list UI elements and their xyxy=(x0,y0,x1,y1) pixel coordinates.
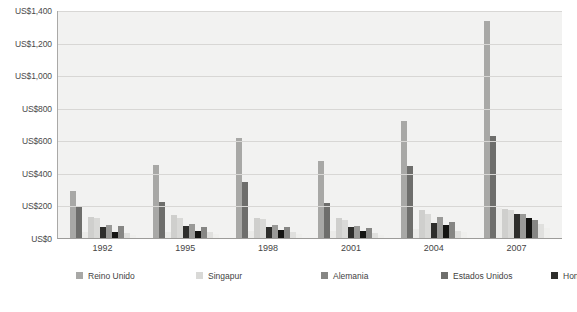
y-axis: US$0US$200US$400US$600US$800US$1,000US$1… xyxy=(0,11,52,239)
y-tick-label: US$200 xyxy=(22,201,52,211)
bar-group-1995 xyxy=(145,11,228,238)
x-tick-label: 2001 xyxy=(309,243,392,253)
y-tick-label: US$0 xyxy=(31,234,52,244)
legend-item[interactable]: Reino Unido xyxy=(76,271,196,281)
legend-swatch-icon xyxy=(441,272,448,279)
x-tick-label: 2004 xyxy=(392,243,475,253)
bar xyxy=(242,182,248,238)
x-tick-label: 1992 xyxy=(61,243,144,253)
gridline xyxy=(58,174,562,175)
legend-swatch-icon xyxy=(76,272,83,279)
bar-groups xyxy=(58,11,562,238)
bar xyxy=(296,234,302,238)
gridline xyxy=(58,76,562,77)
legend-item[interactable]: Singapur xyxy=(196,271,321,281)
legend-label: Singapur xyxy=(208,271,242,281)
bar-group-2007 xyxy=(475,11,558,238)
legend-label: Estados Unidos xyxy=(453,271,513,281)
gridline xyxy=(58,141,562,142)
gridline xyxy=(58,206,562,207)
x-tick-label: 2007 xyxy=(475,243,558,253)
y-tick-label: US$1,400 xyxy=(15,6,52,16)
bar xyxy=(378,235,384,238)
x-tick-label: 1998 xyxy=(227,243,310,253)
legend-swatch-icon xyxy=(196,272,203,279)
bar xyxy=(407,166,413,238)
x-axis-labels: 199219951998200120042007 xyxy=(57,243,562,253)
y-tick-label: US$600 xyxy=(22,136,52,146)
plot-area xyxy=(57,11,562,239)
bar-group-1998 xyxy=(227,11,310,238)
legend-label: Hong Kong xyxy=(563,271,577,281)
bar xyxy=(130,235,136,238)
y-tick-label: US$400 xyxy=(22,169,52,179)
gridline xyxy=(58,109,562,110)
legend-item[interactable]: Alemania xyxy=(321,271,441,281)
gridline xyxy=(58,44,562,45)
chart-legend: Reino UnidoSingapurAlemaniaEstados Unido… xyxy=(76,269,556,283)
gridline xyxy=(58,11,562,12)
bar xyxy=(213,234,219,238)
y-tick-label: US$800 xyxy=(22,104,52,114)
legend-label: Reino Unido xyxy=(88,271,135,281)
bar xyxy=(461,232,467,238)
bar xyxy=(544,228,550,238)
bar-group-1992 xyxy=(62,11,145,238)
x-tick-label: 1995 xyxy=(144,243,227,253)
legend-swatch-icon xyxy=(551,272,558,279)
legend-label: Alemania xyxy=(333,271,368,281)
bar-group-2004 xyxy=(393,11,476,238)
bar-chart: US$0US$200US$400US$600US$800US$1,000US$1… xyxy=(0,0,577,312)
y-tick-label: US$1,000 xyxy=(15,71,52,81)
legend-item[interactable]: Estados Unidos xyxy=(441,271,551,281)
legend-swatch-icon xyxy=(321,272,328,279)
legend-item[interactable]: Hong Kong xyxy=(551,271,577,281)
y-tick-label: US$1,200 xyxy=(15,39,52,49)
bar-group-2001 xyxy=(310,11,393,238)
